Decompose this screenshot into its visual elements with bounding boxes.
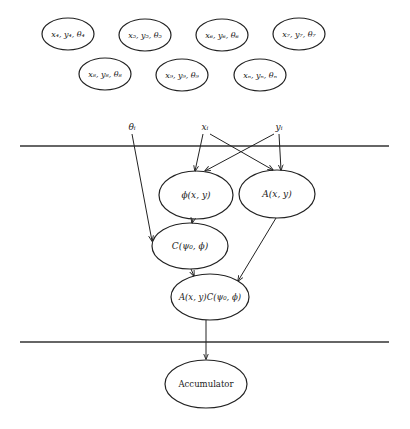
node-AC-label: A(x, y)C(ψ₀, ϕ) [178,292,241,302]
node-C-label: C(ψ₀, ϕ) [172,241,209,251]
node-A: A(x, y) [239,170,315,218]
top-node-label: x₄, y₄, θ₄ [51,30,85,39]
top-node-5: x₉, y₉, θ₉ [156,59,208,91]
top-node-4: x₈, y₈, θ₈ [79,58,131,90]
node-phi-label: ϕ(x, y) [181,190,211,200]
node-C: C(ψ₀, ϕ) [152,223,228,269]
top-node-6: xₙ, yₙ, θₙ [234,59,286,91]
top-node-1: x₅, y₅, θ₅ [119,19,171,51]
node-A-label: A(x, y) [261,189,292,199]
diagram-canvas: x₄, y₄, θ₄ x₅, y₅, θ₅ x₆, y₆, θ₆ x₇, y₇,… [0,0,410,429]
top-node-label: x₇, y₇, θ₇ [282,30,316,39]
top-node-3: x₇, y₇, θ₇ [273,18,325,50]
top-node-label: x₆, y₆, θ₆ [205,31,239,40]
input-y-label: yᵢ [275,122,283,132]
top-node-label: x₉, y₉, θ₉ [165,71,199,80]
input-x-label: xᵢ [202,122,209,132]
top-node-label: x₈, y₈, θ₈ [88,70,122,79]
top-node-0: x₄, y₄, θ₄ [42,18,94,50]
top-node-2: x₆, y₆, θ₆ [196,19,248,51]
top-node-label: xₙ, yₙ, θₙ [243,71,277,80]
input-theta-label: θᵢ [128,122,135,132]
top-node-label: x₅, y₅, θ₅ [128,31,162,40]
node-AC: A(x, y)C(ψ₀, ϕ) [171,274,249,320]
node-accumulator: Accumulator [165,360,247,408]
node-phi: ϕ(x, y) [159,171,233,219]
node-accumulator-label: Accumulator [177,379,234,389]
